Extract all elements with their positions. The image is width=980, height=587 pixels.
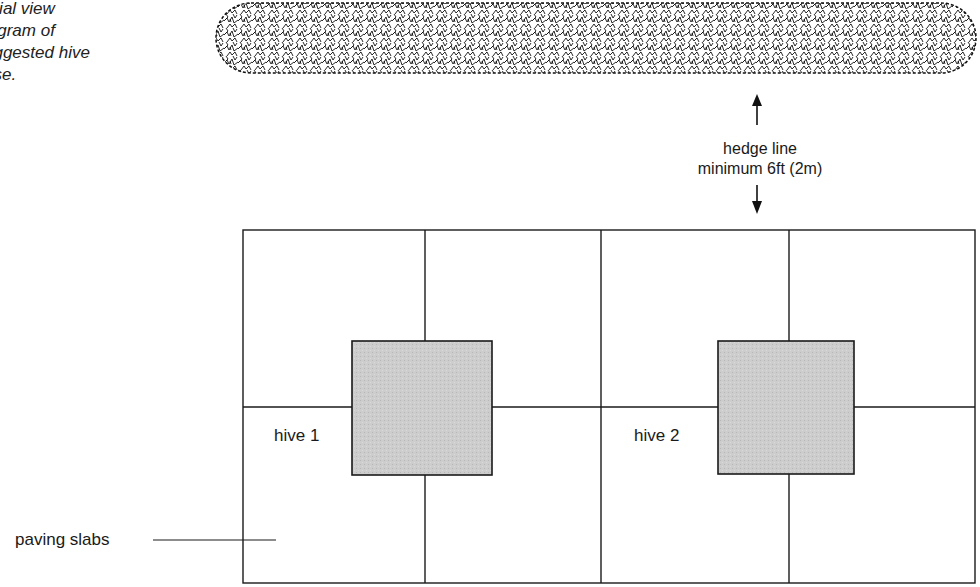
arrow-down-icon xyxy=(752,185,762,214)
hedge-line-label: hedge line minimum 6ft (2m) xyxy=(640,139,880,179)
hedge-label-line-2: minimum 6ft (2m) xyxy=(640,159,880,179)
hedge-label-line-1: hedge line xyxy=(640,139,880,159)
hive-1-label: hive 1 xyxy=(274,426,319,446)
paving-slabs-label: paving slabs xyxy=(15,530,110,550)
hedge xyxy=(216,3,976,73)
hive-2-label: hive 2 xyxy=(634,426,679,446)
arrow-up-icon xyxy=(752,94,762,125)
hive-2-box xyxy=(718,341,854,474)
hive-1-box xyxy=(352,341,492,475)
